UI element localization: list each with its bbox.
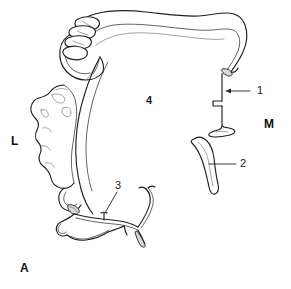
- figure-panel-a: 1 2 3 4 L M A: [0, 0, 291, 289]
- anatomy-illustration: [0, 0, 291, 289]
- orientation-marker-lateral: L: [11, 135, 18, 147]
- callout-label-3: 3: [115, 180, 121, 191]
- body-lateral-border: [76, 57, 108, 214]
- inferior-branching-process: [56, 186, 155, 247]
- pterygoid-hamulus-structure: [209, 68, 238, 137]
- panel-label-a: A: [20, 262, 29, 274]
- callout-label-2: 2: [240, 158, 246, 169]
- leader-line-3: [105, 192, 117, 213]
- molar-teeth-group: [60, 17, 104, 80]
- callout-label-4: 4: [146, 95, 152, 106]
- maxilla-main-outline: [73, 11, 247, 72]
- hook-bone-fragment: [191, 137, 218, 194]
- callout-label-1: 1: [257, 85, 263, 96]
- orientation-marker-medial: M: [264, 118, 274, 130]
- leader-line-1: [226, 89, 250, 94]
- lateral-irregular-bone: [31, 85, 77, 188]
